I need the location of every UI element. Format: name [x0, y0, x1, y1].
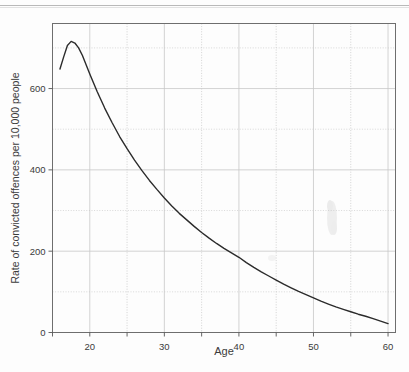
y-tick-label: 200	[30, 246, 46, 257]
y-tick-label: 400	[30, 164, 46, 175]
plot-frame	[53, 24, 396, 333]
scan-smudge-artifact	[268, 200, 337, 261]
x-tick-label: 50	[308, 341, 319, 352]
x-tick-label: 20	[84, 341, 95, 352]
plot-border	[53, 24, 396, 333]
chart-figure: 20304050600200400600 Age Rate of convict…	[0, 0, 409, 372]
y-tick-label: 0	[40, 327, 45, 338]
grid-layer	[53, 24, 396, 333]
data-line-rate-of-convicted-offences	[60, 41, 388, 323]
y-axis-label: Rate of convicted offences per 10,000 pe…	[9, 72, 21, 283]
tick-marks	[49, 89, 389, 337]
tick-labels: 20304050600200400600	[30, 83, 394, 352]
age-crime-line-chart: 20304050600200400600 Age Rate of convict…	[0, 0, 409, 372]
y-tick-label: 600	[30, 83, 46, 94]
x-axis-label: Age	[214, 345, 234, 357]
x-tick-label: 60	[383, 341, 394, 352]
x-tick-label: 30	[159, 341, 170, 352]
data-series-layer	[60, 41, 388, 323]
x-tick-label: 40	[234, 341, 245, 352]
